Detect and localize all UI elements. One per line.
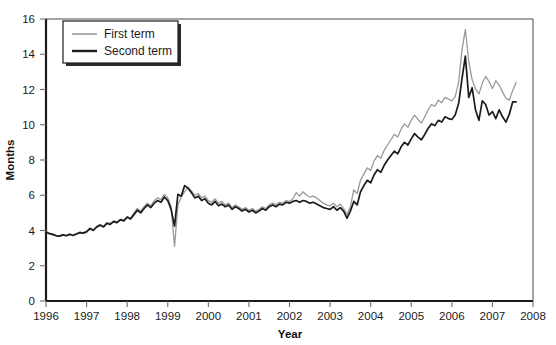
x-tick-label: 2007	[480, 310, 506, 322]
x-tick-label: 2004	[358, 310, 384, 322]
x-tick-label: 2003	[317, 310, 343, 322]
y-tick-label: 16	[22, 13, 35, 25]
x-tick-label: 2005	[398, 310, 424, 322]
chart-legend: First term Second term	[63, 21, 181, 66]
x-tick-label: 1998	[114, 310, 140, 322]
line-chart: 0246810121416 19961997199819992000200120…	[0, 0, 556, 345]
y-tick-label: 4	[29, 225, 36, 237]
series-line-second-term	[46, 56, 516, 236]
x-tick-label: 2006	[439, 310, 465, 322]
x-tick-label: 2008	[520, 310, 546, 322]
x-tick-label: 1996	[33, 310, 59, 322]
y-tick-label: 8	[29, 154, 35, 166]
y-tick-label: 6	[29, 189, 35, 201]
y-tick-label: 0	[29, 295, 35, 307]
chart-container: 0246810121416 19961997199819992000200120…	[0, 0, 556, 345]
legend-label-second-term: Second term	[104, 44, 172, 58]
y-axis-title: Months	[4, 140, 16, 181]
x-axis-ticks: 1996199719981999200020012002200320042005…	[33, 301, 546, 322]
y-axis-ticks: 0246810121416	[22, 13, 46, 307]
y-tick-label: 12	[22, 84, 35, 96]
x-tick-label: 2002	[277, 310, 303, 322]
y-tick-label: 10	[22, 119, 35, 131]
x-tick-label: 1997	[74, 310, 100, 322]
y-tick-label: 2	[29, 260, 35, 272]
x-tick-label: 2000	[196, 310, 222, 322]
x-tick-label: 1999	[155, 310, 181, 322]
x-axis-title: Year	[278, 328, 303, 340]
x-tick-label: 2001	[236, 310, 262, 322]
legend-label-first-term: First term	[104, 27, 155, 41]
y-tick-label: 14	[22, 48, 35, 60]
